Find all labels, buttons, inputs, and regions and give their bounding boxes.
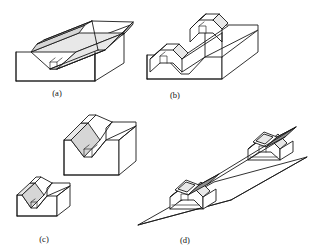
- panel-c-small-ridge-top: [30, 177, 41, 183]
- panel-c-large-ridge-top: [81, 115, 96, 123]
- technical-drawing-canvas: (a) (b): [0, 0, 310, 251]
- panel-d-base-plate-top: [138, 157, 307, 225]
- panel-c-small-top-back-edge: [41, 177, 52, 183]
- panel-a-relief-slot-depth: [50, 58, 55, 62]
- figure-sheet: (a) (b): [0, 0, 310, 251]
- panel-a-caption: (a): [52, 88, 62, 98]
- panel-b-caption: (b): [170, 90, 180, 100]
- panel-c-large-top-back-edge: [96, 115, 112, 122]
- panel-d-caption: (d): [180, 235, 190, 245]
- panel-a-v-groove-block: (a): [16, 21, 133, 98]
- panel-d-v-blocks-on-plate: (d): [138, 127, 307, 245]
- panel-a-far-top-edge: [92, 21, 133, 22]
- panel-a-relief-slot-depth2: [57, 58, 62, 62]
- panel-b-v-block-cross-groove: (b): [147, 14, 258, 100]
- panel-c-caption: (c): [39, 234, 49, 244]
- panel-b-rear-vee-crest-left: [199, 14, 206, 20]
- panel-c-v-blocks-pair: (c): [17, 115, 136, 244]
